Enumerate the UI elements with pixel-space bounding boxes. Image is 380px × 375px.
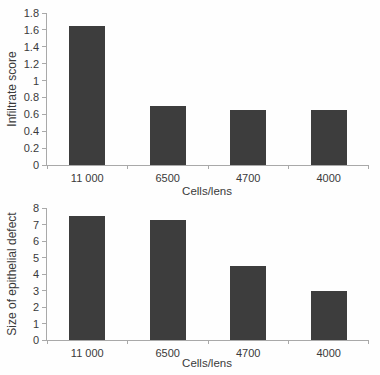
y-tick-mark [42,307,46,308]
y-tick-label: 4 [1,268,39,280]
x-tick-mark [127,165,128,169]
y-tick-label: 1.6 [1,24,39,36]
bar-4000 [311,110,347,165]
y-tick-mark [42,208,46,209]
y-tick-mark [42,165,46,166]
x-tick-mark [368,340,369,344]
y-tick-mark [42,274,46,275]
y-tick-label: 7 [1,219,39,231]
bar-11000 [69,216,105,340]
cells-per-lens-axis-title-top: Cells/lens [182,185,232,197]
y-tick-mark [42,29,46,30]
x-tick-mark [47,340,48,344]
bar-4700 [230,110,266,165]
y-tick-label: 0.8 [1,91,39,103]
y-tick-mark [42,257,46,258]
y-tick-mark [42,46,46,47]
category-label: 4000 [289,172,370,184]
y-tick-label: 5 [1,252,39,264]
bar-4700 [230,266,266,340]
x-tick-mark [288,340,289,344]
y-tick-mark [42,13,46,14]
y-tick-label: 0.4 [1,125,39,137]
y-tick-label: 1.2 [1,58,39,70]
two-panel-bar-figure: Infiltrate score 00.20.40.60.811.21.41.6… [0,0,380,375]
y-tick-label: 1.8 [1,7,39,19]
y-tick-mark [42,80,46,81]
y-tick-mark [42,97,46,98]
y-tick-mark [42,241,46,242]
y-tick-label: 0.6 [1,108,39,120]
y-tick-label: 8 [1,202,39,214]
bar-11000 [69,26,105,165]
y-tick-mark [42,323,46,324]
y-tick-label: 0 [1,334,39,346]
x-tick-mark [127,340,128,344]
y-tick-label: 6 [1,235,39,247]
y-tick-mark [42,63,46,64]
x-tick-mark [47,165,48,169]
bar-6500 [150,106,186,165]
y-tick-mark [42,290,46,291]
y-tick-label: 3 [1,285,39,297]
category-label: 4000 [289,347,370,359]
y-tick-label: 1 [1,75,39,87]
category-label: 11 000 [47,172,128,184]
x-tick-mark [208,165,209,169]
y-tick-mark [42,148,46,149]
infiltrate-score-plot-area: 00.20.40.60.811.21.41.61.811 00065004700… [46,13,369,166]
y-tick-label: 2 [1,301,39,313]
x-tick-mark [288,165,289,169]
y-tick-mark [42,114,46,115]
y-tick-label: 0 [1,159,39,171]
x-tick-mark [368,165,369,169]
y-tick-label: 0.2 [1,142,39,154]
y-tick-label: 1.4 [1,41,39,53]
y-tick-mark [42,224,46,225]
epithelial-defect-plot-area: 01234567811 000650047004000 [46,208,369,341]
category-label: 11 000 [47,347,128,359]
y-tick-mark [42,340,46,341]
cells-per-lens-axis-title-bottom: Cells/lens [182,357,232,369]
category-label: 6500 [128,172,209,184]
x-tick-mark [208,340,209,344]
category-label: 4700 [208,172,289,184]
y-tick-label: 1 [1,318,39,330]
bar-4000 [311,291,347,341]
y-tick-mark [42,131,46,132]
bar-6500 [150,220,186,340]
